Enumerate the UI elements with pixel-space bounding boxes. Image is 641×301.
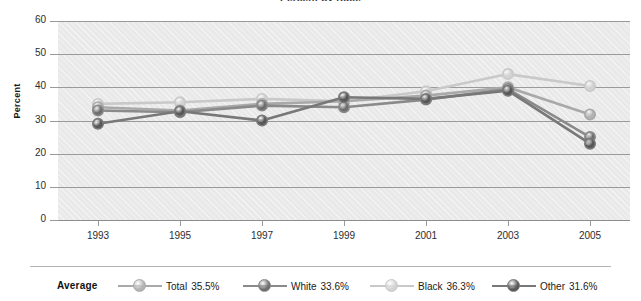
data-point [93,119,103,129]
legend-series-average: 31.6% [569,281,597,292]
x-axis-tick-label: 2001 [396,230,456,241]
y-axis-tick-label: 40 [0,80,46,91]
data-point [585,109,595,119]
x-axis-tick [344,221,345,226]
y-axis-tick [50,121,58,122]
legend-series-average: 35.5% [191,281,219,292]
legend-marker-dot [507,279,520,292]
x-axis-tick [590,221,591,226]
legend-series-name: Other [540,281,565,292]
x-axis-tick [98,221,99,226]
x-axis-tick-label: 2005 [560,230,620,241]
legend-divider [30,266,611,267]
legend-series-name: White [291,281,317,292]
legend-series-average: 33.6% [321,281,349,292]
data-point [585,139,595,149]
y-axis-tick-label: 10 [0,180,46,191]
data-point [93,105,103,115]
legend-marker-white-icon [243,276,287,296]
legend-item-other[interactable]: Other31.6% [492,276,597,296]
gridline [58,220,630,221]
y-axis-tick-label: 50 [0,47,46,58]
legend-series-name: Total [166,281,187,292]
x-axis-tick-label: 1997 [232,230,292,241]
legend-item-total[interactable]: Total35.5% [118,276,219,296]
y-axis-tick [50,54,58,55]
legend-series-name: Black [418,281,442,292]
plot-area [58,21,630,220]
legend-item-white[interactable]: White33.6% [243,276,349,296]
legend-marker-dot [385,279,398,292]
data-point [339,92,349,102]
y-axis-tick [50,87,58,88]
y-axis-tick-label: 60 [0,14,46,25]
x-axis-tick-label: 1995 [150,230,210,241]
series-layer [58,21,630,220]
data-point [503,69,513,79]
y-axis-tick [50,187,58,188]
x-axis-tick-label: 1993 [68,230,128,241]
x-axis-tick [262,221,263,226]
data-point [421,94,431,104]
y-axis-tick-label: 30 [0,114,46,125]
chart-title: Percent by Race [0,0,641,1]
data-point [257,100,267,110]
x-axis-tick-label: 1999 [314,230,374,241]
y-axis-tick [50,154,58,155]
legend-marker-dot [133,279,146,292]
chart-container: Percent by Race Percent 0102030405060 19… [0,0,641,301]
y-axis-tick [50,21,58,22]
data-point [503,86,513,96]
legend-marker-black-icon [370,276,414,296]
x-axis-tick [180,221,181,226]
legend-label: White33.6% [291,281,349,292]
y-axis-tick-label: 0 [0,213,46,224]
x-axis-tick [426,221,427,226]
legend-marker-total-icon [118,276,162,296]
legend-label: Total35.5% [166,281,219,292]
legend-item-black[interactable]: Black36.3% [370,276,475,296]
y-axis-tick-label: 20 [0,147,46,158]
data-point [339,102,349,112]
legend-title: Average [57,280,98,291]
legend-series-average: 36.3% [446,281,474,292]
x-axis-tick [508,221,509,226]
data-point [175,106,185,116]
legend-label: Other31.6% [540,281,597,292]
data-point [257,115,267,125]
y-axis-tick [50,220,58,221]
legend-marker-other-icon [492,276,536,296]
legend-label: Black36.3% [418,281,475,292]
x-axis-tick-label: 2003 [478,230,538,241]
chart-legend: Average Total35.5%White33.6%Black36.3%Ot… [0,276,641,298]
data-point [585,81,595,91]
legend-marker-dot [258,279,271,292]
